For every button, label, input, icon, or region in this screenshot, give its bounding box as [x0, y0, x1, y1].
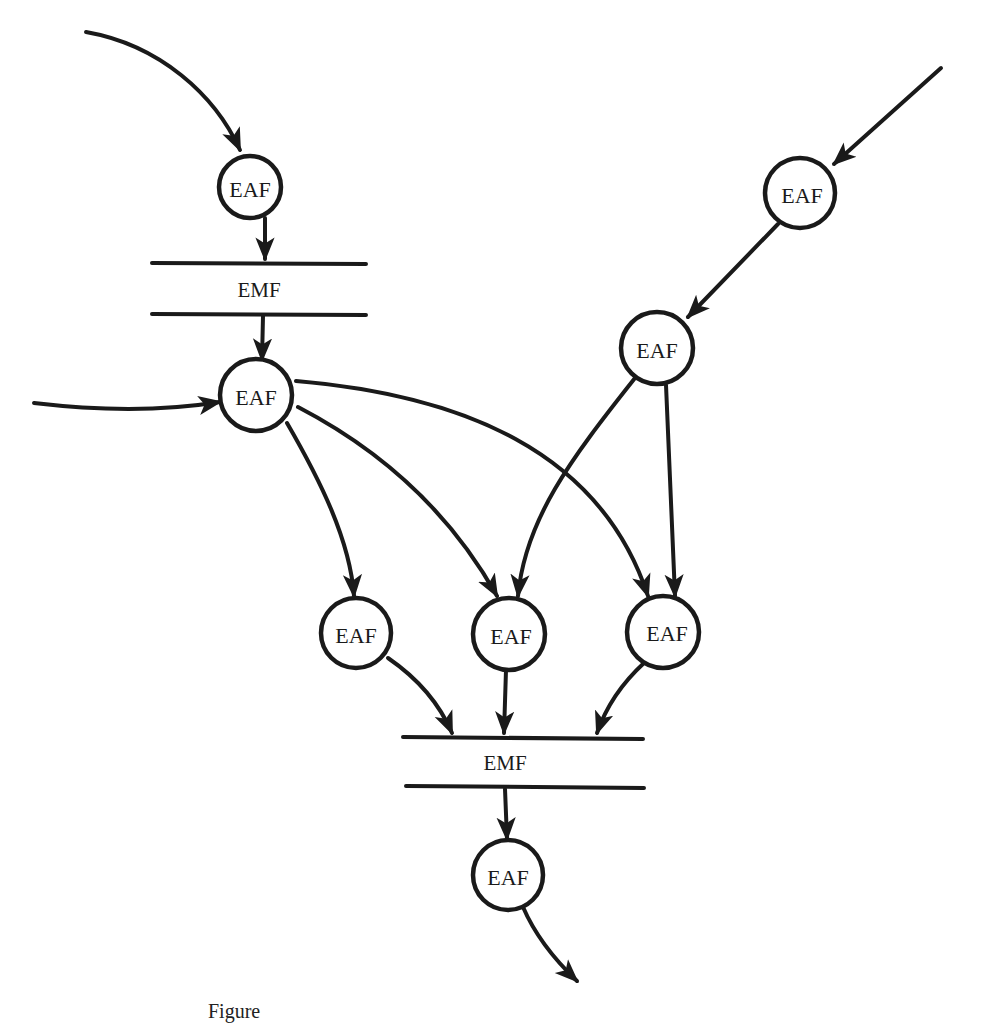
edge-external-to-eaf-top-left — [86, 32, 240, 150]
edge-eaf-row-1-to-emf-lower — [388, 658, 452, 733]
label-eaf-top-right: EAF — [781, 183, 823, 208]
edge-eaf-mid-right-to-eaf-row-3 — [666, 385, 675, 596]
edge-eaf-mid-left-to-eaf-row-1 — [287, 423, 354, 596]
emf-lower-top-bar — [403, 737, 643, 739]
label-eaf-mid-right: EAF — [636, 338, 678, 363]
figure-caption: Figure — [208, 1000, 260, 1023]
edge-eaf-top-right-to-eaf-mid-right — [688, 224, 778, 317]
edge-external-to-eaf-top-right — [834, 68, 941, 164]
edge-eaf-row-2-to-emf-lower — [504, 670, 506, 733]
label-eaf-mid-left: EAF — [235, 385, 277, 410]
label-eaf-row-1: EAF — [335, 623, 377, 648]
label-eaf-row-3: EAF — [646, 621, 688, 646]
emf-lower-bottom-bar — [406, 786, 644, 788]
emf-upper-top-bar — [152, 263, 366, 264]
edge-emf-upper-to-eaf-mid-left — [262, 316, 263, 360]
edge-emf-lower-to-eaf-bottom — [505, 789, 507, 839]
label-eaf-row-2: EAF — [490, 624, 532, 649]
label-eaf-bottom: EAF — [487, 865, 529, 890]
emf-upper-bottom-bar — [152, 314, 366, 315]
label-emf-upper: EMF — [237, 278, 280, 302]
edge-eaf-mid-right-to-eaf-row-2 — [518, 378, 635, 596]
label-emf-lower: EMF — [483, 751, 526, 775]
label-eaf-top-left: EAF — [229, 177, 271, 202]
edge-eaf-row-3-to-emf-lower — [597, 663, 644, 733]
edge-eaf-bottom-to-external-out — [523, 907, 577, 981]
edge-external-left-to-eaf-mid-left — [34, 402, 220, 409]
